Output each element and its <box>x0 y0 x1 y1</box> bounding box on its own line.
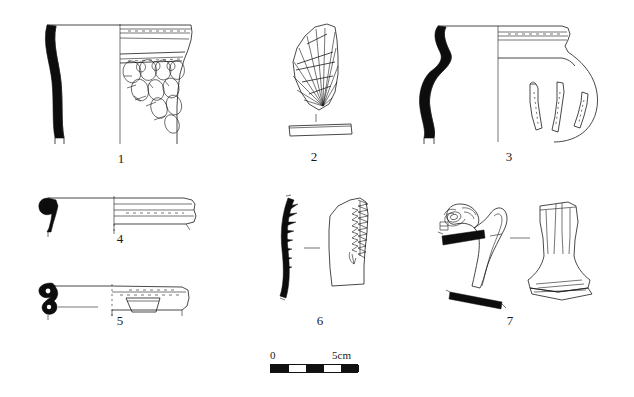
figure-label-6: 6 <box>305 314 335 327</box>
figure-3-drawing <box>412 10 612 150</box>
figure-6-drawing <box>272 192 392 307</box>
figure-7-drawing <box>418 192 598 312</box>
figure-2-drawing <box>283 18 363 138</box>
scale-label-start: 0 <box>270 350 276 361</box>
figure-label-4: 4 <box>105 232 135 245</box>
figure-label-5: 5 <box>105 314 135 327</box>
scale-segment-1 <box>271 365 289 372</box>
scale-bar-ticks <box>270 364 358 373</box>
figure-label-2: 2 <box>299 150 329 163</box>
figure-1-drawing <box>28 10 208 150</box>
scale-segment-5 <box>341 365 359 372</box>
scale-label-end: 5cm <box>332 350 351 361</box>
figure-label-7: 7 <box>495 314 525 327</box>
figure-label-1: 1 <box>106 152 136 165</box>
scale-segment-3 <box>306 365 324 372</box>
illustration-plate: 1 <box>0 0 634 397</box>
figure-label-3: 3 <box>494 150 524 163</box>
